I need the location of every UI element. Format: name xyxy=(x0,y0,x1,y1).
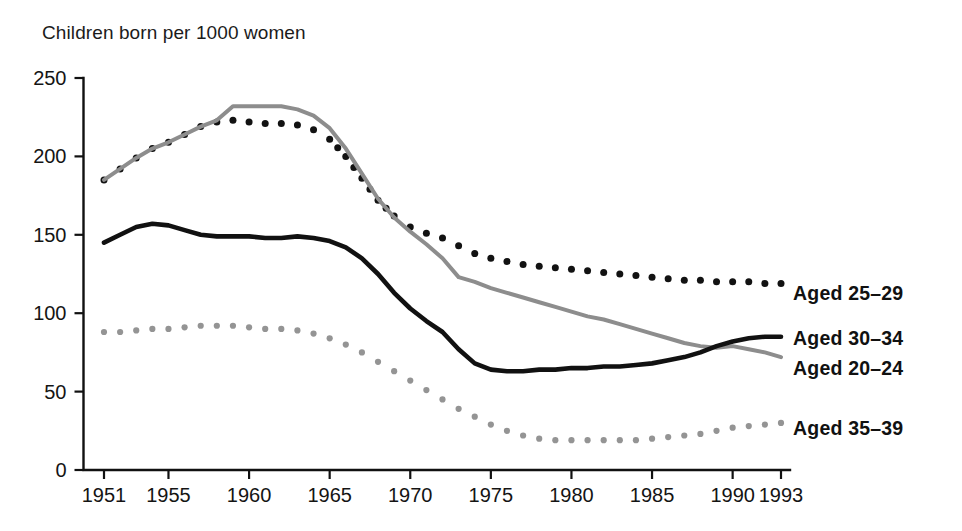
series-dot xyxy=(649,436,655,442)
y-tick-label: 100 xyxy=(33,302,66,324)
series-dot xyxy=(762,421,768,427)
series-dot xyxy=(310,330,316,336)
series-dot xyxy=(149,326,155,332)
x-tick-label: 1975 xyxy=(469,484,514,506)
y-tick-label: 250 xyxy=(33,67,66,89)
series-dot xyxy=(117,329,123,335)
series-dot xyxy=(584,437,590,443)
series-dot xyxy=(649,274,656,281)
series-dot xyxy=(697,431,703,437)
series-line xyxy=(104,106,781,357)
series-dot xyxy=(600,269,607,276)
series-dot xyxy=(552,437,558,443)
series-dot xyxy=(584,267,591,274)
series-dot xyxy=(182,324,188,330)
series-dot xyxy=(536,436,542,442)
chart-figure: Children born per 1000 women 05010015020… xyxy=(0,0,962,531)
x-axis-tick-labels: 1951195519601965197019751980198519901993 xyxy=(82,484,804,506)
series-dot xyxy=(761,280,768,287)
series-dot xyxy=(472,414,478,420)
series-dot xyxy=(601,437,607,443)
series-dot xyxy=(375,359,381,365)
series-dot xyxy=(327,335,333,341)
legend-label-aged-35-39: Aged 35–39 xyxy=(793,417,903,439)
axis-lines xyxy=(84,78,791,470)
series-dot xyxy=(230,323,236,329)
series-dot xyxy=(633,437,639,443)
series-dot xyxy=(391,368,397,374)
series-line xyxy=(104,224,781,371)
series-dot xyxy=(713,278,720,285)
chart-series-layer xyxy=(101,106,785,443)
series-dot xyxy=(278,326,284,332)
x-tick-label: 1985 xyxy=(630,484,675,506)
series-dot xyxy=(697,277,704,284)
series-dot xyxy=(503,258,510,265)
x-tick-label: 1993 xyxy=(759,484,804,506)
x-tick-label: 1970 xyxy=(388,484,433,506)
series-dot xyxy=(520,261,527,268)
series-dot xyxy=(616,271,623,278)
y-tick-label: 0 xyxy=(55,459,66,481)
series-dot xyxy=(334,144,341,151)
series-dot xyxy=(423,230,430,237)
series-dot xyxy=(617,437,623,443)
x-tick-label: 1990 xyxy=(710,484,755,506)
series-dot xyxy=(455,242,462,249)
legend-label-aged-30-34: Aged 30–34 xyxy=(793,327,903,349)
series-aged-20-24 xyxy=(104,106,781,357)
series-dot xyxy=(359,349,365,355)
series-dot xyxy=(713,428,719,434)
series-dot xyxy=(568,266,575,273)
series-aged-30-34 xyxy=(104,224,781,371)
series-dot xyxy=(745,278,752,285)
chart-axes xyxy=(84,78,791,470)
series-dot xyxy=(729,278,736,285)
series-dot xyxy=(294,122,301,129)
series-dot xyxy=(246,324,252,330)
series-dot xyxy=(504,428,510,434)
series-dot xyxy=(214,323,220,329)
series-dot xyxy=(246,118,253,125)
series-dot xyxy=(423,387,429,393)
series-dot xyxy=(487,255,494,262)
series-dot xyxy=(778,420,784,426)
y-tick-label: 50 xyxy=(44,381,66,403)
series-dot xyxy=(552,264,559,271)
series-dot xyxy=(439,396,445,402)
series-dot xyxy=(101,329,107,335)
series-dot xyxy=(746,423,752,429)
series-dot xyxy=(488,421,494,427)
series-dot xyxy=(439,234,446,241)
x-tick-label: 1951 xyxy=(82,484,127,506)
series-dot xyxy=(133,327,139,333)
x-tick-label: 1965 xyxy=(307,484,352,506)
series-dot xyxy=(778,280,785,287)
legend-label-aged-20-24: Aged 20–24 xyxy=(793,357,903,379)
series-dot xyxy=(730,425,736,431)
x-tick-label: 1980 xyxy=(549,484,594,506)
series-dot xyxy=(407,378,413,384)
series-dot xyxy=(278,120,285,127)
series-dot xyxy=(681,277,688,284)
series-dot xyxy=(310,126,317,133)
series-dot xyxy=(294,327,300,333)
series-dot xyxy=(665,434,671,440)
series-dot xyxy=(262,326,268,332)
y-tick-label: 150 xyxy=(33,224,66,246)
chart-plot-area: 050100150200250 195119551960196519701975… xyxy=(0,0,962,531)
series-dot xyxy=(262,120,269,127)
series-dot xyxy=(520,432,526,438)
x-tick-label: 1960 xyxy=(227,484,272,506)
series-dot xyxy=(471,250,478,257)
series-dot xyxy=(632,272,639,279)
series-dot xyxy=(536,263,543,270)
series-dot xyxy=(456,406,462,412)
series-aged-25-29 xyxy=(101,117,785,287)
series-dot xyxy=(165,326,171,332)
series-dot xyxy=(568,437,574,443)
legend-label-aged-25-29: Aged 25–29 xyxy=(793,282,903,304)
y-tick-label: 200 xyxy=(33,145,66,167)
series-dot xyxy=(665,275,672,282)
y-axis-tick-labels: 050100150200250 xyxy=(33,67,66,481)
